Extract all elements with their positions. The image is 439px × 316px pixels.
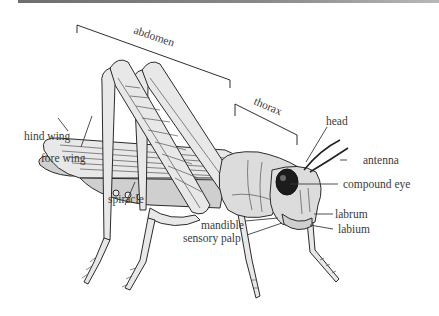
- label-thorax: thorax: [252, 95, 284, 118]
- label-compound-eye: compound eye: [343, 178, 410, 191]
- label-abdomen: abdomen: [132, 24, 176, 49]
- label-antenna: antenna: [363, 154, 399, 166]
- antennae: [304, 140, 348, 172]
- label-fore-wing: fore wing: [41, 152, 86, 165]
- label-mandible: mandible: [201, 219, 244, 231]
- leader-mandible: [245, 218, 278, 221]
- compound-eye: [276, 169, 298, 195]
- middle-leg: [122, 208, 200, 290]
- head: [270, 166, 321, 229]
- leader-sensory-palp: [247, 223, 282, 235]
- label-labrum: labrum: [335, 208, 368, 220]
- label-hind-wing: hind wing: [24, 130, 71, 143]
- label-sensory-palp: sensory palp: [183, 232, 241, 245]
- label-spiracle: spiracle: [108, 193, 144, 206]
- label-head: head: [326, 115, 348, 127]
- label-labium: labium: [338, 223, 370, 235]
- grasshopper-diagram: abdomen thorax head antenna compound eye…: [0, 0, 439, 316]
